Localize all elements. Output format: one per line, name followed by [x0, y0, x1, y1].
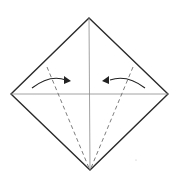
diagram-svg — [0, 0, 176, 185]
origami-diagram: Square base in diamond orientation; fold… — [0, 0, 176, 185]
noise-speck — [135, 159, 136, 160]
